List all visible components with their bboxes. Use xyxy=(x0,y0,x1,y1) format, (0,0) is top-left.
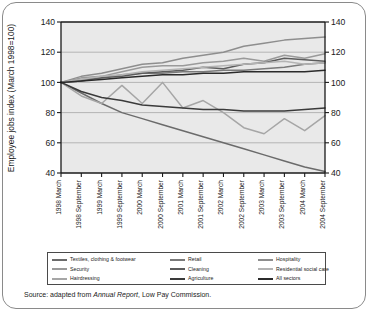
legend-grid: Textiles, clothing & footwearRetailHospi… xyxy=(48,255,325,284)
legend-label: Hospitality xyxy=(276,257,300,262)
y-tick-label-left: 140 xyxy=(41,17,56,27)
y-tick-label-left: 100 xyxy=(41,78,56,88)
y-tick-label-right: 80 xyxy=(331,108,341,118)
legend-label: Hairdressing xyxy=(70,276,100,281)
legend-color-swatch xyxy=(52,268,67,270)
legend-entry: Hospitality xyxy=(258,257,331,262)
y-axis-left-ticks: 406080100120140 xyxy=(41,17,61,178)
chart-legend: Textiles, clothing & footwearRetailHospi… xyxy=(47,252,326,285)
line-chart: 406080100120140 406080100120140 1998 Mar… xyxy=(0,6,370,251)
legend-label: All sectors xyxy=(276,276,300,281)
legend-label: Agriculture xyxy=(188,276,213,281)
legend-entry: Residential social care xyxy=(258,267,331,272)
source-suffix: , Low Pay Commission. xyxy=(138,291,211,298)
x-axis-labels: 1998 March1998 September1999 March1999 S… xyxy=(55,179,327,229)
legend-entry: Security xyxy=(52,267,170,272)
source-prefix: Source: adapted from xyxy=(24,291,93,298)
legend-entry: Retail xyxy=(170,257,258,262)
x-tick-label: 2004 September xyxy=(319,179,327,229)
legend-color-swatch xyxy=(170,278,185,280)
x-tick-label: 2003 September xyxy=(278,179,286,229)
x-tick-label: 2002 September xyxy=(238,179,246,229)
y-axis-title: Employee jobs index (March 1998=100) xyxy=(6,24,16,172)
x-tick-label: 2003 March xyxy=(258,180,265,215)
y-tick-label-left: 120 xyxy=(41,47,56,57)
x-tick-label: 2004 March xyxy=(299,180,306,215)
x-tick-label: 1998 March xyxy=(55,180,62,215)
legend-label: Cleaning xyxy=(188,267,209,272)
y-tick-label-left: 80 xyxy=(45,108,55,118)
x-tick-label: 2001 March xyxy=(177,180,184,215)
y-tick-label-right: 40 xyxy=(331,168,341,178)
source-publication: Annual Report xyxy=(93,291,138,298)
x-tick-label: 2000 September xyxy=(157,179,165,229)
y-tick-label-right: 140 xyxy=(331,17,346,27)
legend-color-swatch xyxy=(258,278,273,280)
legend-entry: Hairdressing xyxy=(52,276,170,281)
legend-color-swatch xyxy=(52,278,67,280)
chart-region: 406080100120140 406080100120140 1998 Mar… xyxy=(0,6,370,251)
y-tick-label-left: 40 xyxy=(45,168,55,178)
x-tick-label: 1998 September xyxy=(75,179,83,229)
legend-color-swatch xyxy=(170,268,185,270)
x-tick-label: 1999 September xyxy=(116,179,124,229)
x-tick-label: 1999 March xyxy=(96,180,103,215)
y-tick-label-right: 60 xyxy=(331,138,341,148)
legend-entry: Agriculture xyxy=(170,276,258,281)
x-tick-label: 2001 September xyxy=(197,179,205,229)
legend-label: Residential social care xyxy=(276,267,329,272)
y-axis-right-ticks: 406080100120140 xyxy=(325,17,346,178)
legend-entry: Cleaning xyxy=(170,267,258,272)
y-tick-label-right: 100 xyxy=(331,78,346,88)
legend-label: Security xyxy=(70,267,89,272)
source-note: Source: adapted from Annual Report, Low … xyxy=(24,291,211,298)
x-tick-label: 2000 March xyxy=(136,180,143,215)
legend-label: Retail xyxy=(188,257,202,262)
legend-color-swatch xyxy=(170,259,185,261)
y-tick-label-left: 60 xyxy=(45,138,55,148)
legend-color-swatch xyxy=(52,259,67,261)
legend-color-swatch xyxy=(258,259,273,261)
legend-color-swatch xyxy=(258,268,273,270)
legend-entry: Textiles, clothing & footwear xyxy=(52,257,170,262)
y-tick-label-right: 120 xyxy=(331,47,346,57)
legend-label: Textiles, clothing & footwear xyxy=(70,257,136,262)
legend-entry: All sectors xyxy=(258,276,331,281)
x-tick-label: 2002 March xyxy=(217,180,224,215)
